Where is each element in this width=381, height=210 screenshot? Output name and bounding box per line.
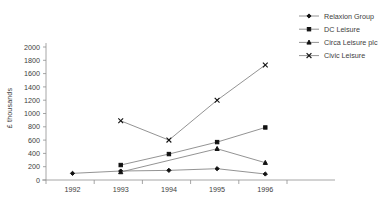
x-tick-label: 1993 — [113, 185, 129, 194]
x-tick-label: 1994 — [161, 185, 177, 194]
y-axis-tick-marks — [43, 47, 46, 180]
x-tick-label: 1995 — [209, 185, 225, 194]
series-civic-leisure — [118, 63, 267, 143]
data-point-marker — [215, 146, 219, 150]
line-chart: £ thousands 0200400600800100012001400160… — [0, 0, 381, 210]
data-point-marker — [215, 167, 219, 171]
data-point-marker — [215, 98, 220, 103]
data-point-marker — [167, 168, 171, 172]
data-point-marker — [263, 160, 267, 164]
y-axis-title-label: £ thousands — [5, 88, 14, 128]
y-tick-label: 200 — [28, 162, 40, 171]
data-point-marker — [119, 163, 122, 166]
legend-item-relaxion-group[interactable]: Relaxion Group — [299, 12, 374, 21]
legend-marker — [307, 40, 311, 44]
series-line — [121, 65, 266, 140]
y-axis-title: £ thousands — [2, 58, 16, 158]
x-axis-tick-marks — [46, 180, 287, 184]
data-point-marker — [263, 172, 267, 176]
legend-item-dc-leisure[interactable]: DC Leisure — [299, 25, 360, 34]
data-point-marker — [167, 138, 172, 143]
y-tick-label: 1000 — [24, 109, 40, 118]
series-line — [121, 127, 266, 165]
legend-marker — [307, 14, 311, 18]
legend-marker — [307, 28, 310, 31]
y-tick-label: 600 — [28, 136, 40, 145]
y-tick-label: 1600 — [24, 69, 40, 78]
legend-item-civic-leisure[interactable]: Civic Leisure — [299, 51, 365, 60]
series-relaxion-group — [70, 167, 267, 177]
y-axis-tick-labels: 0200400600800100012001400160018002000 — [24, 43, 40, 185]
y-tick-label: 400 — [28, 149, 40, 158]
y-tick-label: 1400 — [24, 83, 40, 92]
x-tick-label: 1992 — [65, 185, 81, 194]
chart-legend: Relaxion GroupDC LeisureCirca Leisure pl… — [299, 12, 378, 61]
x-axis-tick-labels: 19921993199419951996 — [65, 185, 274, 194]
legend-label: Relaxion Group — [324, 12, 374, 21]
data-series-layer — [70, 63, 267, 177]
y-tick-label: 1200 — [24, 96, 40, 105]
data-point-marker — [263, 63, 268, 68]
x-tick-label: 1996 — [257, 185, 273, 194]
y-tick-label: 800 — [28, 122, 40, 131]
data-point-marker — [215, 140, 218, 143]
y-tick-label: 0 — [36, 176, 40, 185]
data-point-marker — [118, 118, 123, 123]
data-point-marker — [70, 171, 74, 175]
data-point-marker — [167, 152, 170, 155]
data-point-marker — [264, 126, 267, 129]
legend-item-circa-leisure-plc[interactable]: Circa Leisure plc — [299, 38, 378, 47]
chart-canvas: 0200400600800100012001400160018002000 19… — [0, 0, 381, 210]
series-dc-leisure — [119, 126, 267, 167]
y-tick-label: 1800 — [24, 56, 40, 65]
legend-label: Circa Leisure plc — [324, 38, 378, 47]
y-tick-label: 2000 — [24, 43, 40, 52]
legend-label: DC Leisure — [324, 25, 360, 34]
legend-label: Civic Leisure — [324, 51, 365, 60]
